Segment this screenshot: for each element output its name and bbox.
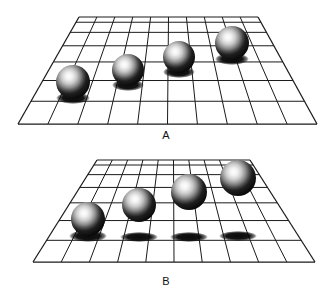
figure-background [0, 0, 333, 292]
sphere-b-3 [171, 174, 207, 210]
sphere-a-3 [163, 41, 195, 73]
sphere-b-4 [220, 160, 256, 196]
sphere-b-4-shadow [219, 231, 257, 241]
panel-b-label: B [162, 275, 169, 287]
grid-column-line [174, 160, 175, 262]
shadow-depth-illusion-figure: A B [0, 0, 333, 292]
sphere-b-2-shadow [120, 232, 158, 242]
sphere-b-2 [122, 188, 156, 222]
sphere-a-4 [215, 26, 249, 60]
panel-a-label: A [162, 129, 170, 141]
sphere-b-1 [71, 202, 105, 236]
sphere-a-2 [112, 54, 144, 86]
figure-root: A B [0, 0, 333, 292]
sphere-a-1 [56, 65, 90, 99]
sphere-b-3-shadow [170, 232, 208, 242]
